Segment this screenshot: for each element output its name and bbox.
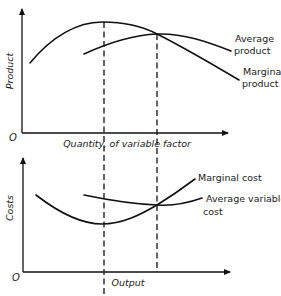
label-average-variable-cost-1: Average variable bbox=[206, 193, 281, 204]
x-axis-label-output: Output bbox=[112, 277, 146, 288]
chart-figure: Product O Quantity, of variable factor A… bbox=[0, 0, 281, 296]
label-marginal-product-1: Marginal bbox=[243, 66, 281, 77]
origin-label-top: O bbox=[9, 132, 17, 143]
y-axis-label-costs: Costs bbox=[4, 195, 15, 221]
label-average-product-1: Average bbox=[235, 33, 274, 44]
label-average-variable-cost-2: cost bbox=[203, 206, 223, 217]
average-variable-cost-curve bbox=[84, 195, 202, 205]
y-axis-label-product: Product bbox=[4, 52, 15, 90]
label-marginal-product-2: product bbox=[242, 78, 279, 89]
marginal-product-curve bbox=[30, 22, 239, 80]
label-average-product-2: product bbox=[234, 45, 271, 56]
cost-chart: Costs O Output Marginal cost Average var… bbox=[4, 158, 281, 288]
label-marginal-cost: Marginal cost bbox=[198, 172, 262, 183]
product-chart: Product O Quantity, of variable factor A… bbox=[4, 9, 281, 296]
x-axis-label-quantity: Quantity, of variable factor bbox=[63, 138, 192, 149]
origin-label-bottom: O bbox=[12, 272, 20, 283]
